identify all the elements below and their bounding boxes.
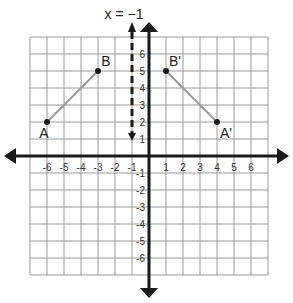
y-tick-label: 3 xyxy=(139,100,145,111)
y-tick-label: -3 xyxy=(136,202,145,213)
y-tick-label: 5 xyxy=(139,66,145,77)
x-tick-label: 1 xyxy=(163,162,169,173)
arrow-down-icon xyxy=(128,133,136,141)
point-label: B xyxy=(101,53,110,69)
coordinate-plane: -6-5-4-3-2-1123456654321-1-2-3-4-5-6 ABB… xyxy=(0,0,293,303)
segment-B'-A' xyxy=(166,71,217,122)
reflection-line-label: x = −1 xyxy=(105,6,144,22)
x-tick-label: -3 xyxy=(94,162,103,173)
y-axis-down-arrow-icon xyxy=(140,288,158,298)
point-label: B' xyxy=(169,53,181,69)
x-tick-label: -4 xyxy=(77,162,86,173)
y-tick-label: -4 xyxy=(136,219,145,230)
x-tick-label: 5 xyxy=(231,162,237,173)
point-B xyxy=(95,68,101,74)
arrow-up-icon xyxy=(128,22,136,32)
x-axis-left-arrow-icon xyxy=(4,148,16,164)
points: ABB'A' xyxy=(39,53,232,141)
y-tick-label: -1 xyxy=(136,168,145,179)
point-label: A xyxy=(39,125,49,141)
x-tick-label: 4 xyxy=(214,162,220,173)
x-tick-label: -2 xyxy=(111,162,120,173)
x-tick-label: 6 xyxy=(248,162,254,173)
y-tick-label: -5 xyxy=(136,236,145,247)
segment-A-B xyxy=(47,71,98,122)
x-tick-label: 2 xyxy=(180,162,186,173)
y-axis-up-arrow-icon xyxy=(140,22,158,32)
y-tick-label: 4 xyxy=(139,83,145,94)
point-label: A' xyxy=(220,125,232,141)
x-tick-label: 3 xyxy=(197,162,203,173)
y-tick-label: -6 xyxy=(136,253,145,264)
y-tick-label: 1 xyxy=(139,134,145,145)
x-tick-label: -5 xyxy=(60,162,69,173)
y-tick-label: 6 xyxy=(139,49,145,60)
x-tick-label: -6 xyxy=(43,162,52,173)
x-axis-right-arrow-icon xyxy=(277,148,289,164)
y-tick-label: -2 xyxy=(136,185,145,196)
y-tick-label: 2 xyxy=(139,117,145,128)
